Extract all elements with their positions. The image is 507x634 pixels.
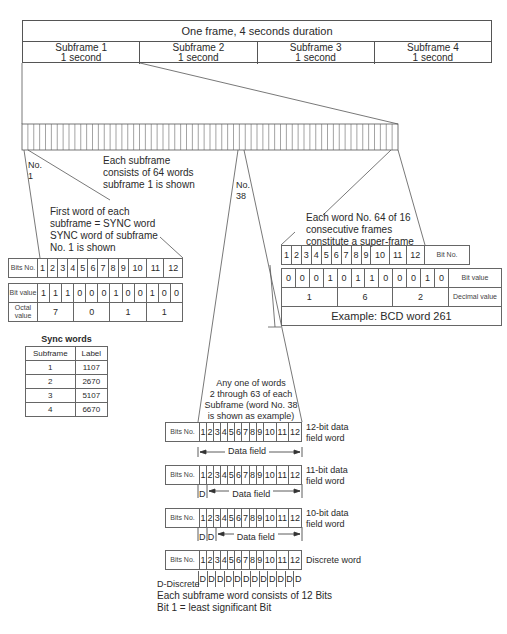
decimal-value: 2 [393,288,449,307]
sync-words-table: SubframeLabel 11107226703510746670 [25,346,108,417]
bit-number: 3 [214,551,221,570]
bit-number: 3 [58,259,68,278]
bit-number: 10 [263,466,276,485]
bit-number: 3 [214,423,221,442]
bit-number: 11 [276,551,288,570]
bit-number: 11 [276,466,288,485]
bit-number: 10 [128,259,146,278]
bit-number: 4 [221,509,228,528]
cell: 3 [26,389,76,403]
bit-number: 1 [200,466,207,485]
bit-number: 8 [249,551,256,570]
bit-value: 1 [421,269,435,288]
bit-value: 1 [146,284,158,303]
bit-number: 5 [228,423,235,442]
bit-value: 0 [158,284,170,303]
bit-value: 0 [379,269,393,288]
legend: D-Discrete Each subframe word consists o… [157,578,332,614]
bit-number: 1 [282,246,292,265]
bit-number: 1 [200,551,207,570]
bit-number: 5 [228,466,235,485]
cell: 4 [26,403,76,417]
data-word-bits-table: Bits No.123456789101112 [165,508,302,528]
bit-number: 8 [108,259,118,278]
bit-value: 1 [365,269,379,288]
bit-value: 0 [134,284,146,303]
bit-number: 9 [256,423,263,442]
bit-number: 12 [406,246,424,265]
bit-number: 5 [78,259,88,278]
data-word-bits-table: Bits No.123456789101112 [165,465,302,485]
bit-number: 7 [242,423,249,442]
column-header: Label [75,347,107,361]
cell: 2670 [75,375,107,389]
bit-number: 12 [288,423,301,442]
bit-number: 8 [249,509,256,528]
bit-number: 2 [291,246,301,265]
bit-number: 7 [98,259,108,278]
bit-number: 5 [321,246,331,265]
superframe-bit-value-table: 000101100010Bit value 162Decimal value E… [281,268,502,326]
sync-bit-value-table: Bit value111000100100 Octal value7011 [8,283,183,322]
bit-number: 9 [256,509,263,528]
cell: 5107 [75,389,107,403]
bit-value: 0 [86,284,98,303]
bit-number: 6 [235,551,242,570]
table-row: 22670 [26,375,108,389]
bit-value: 1 [110,284,122,303]
subframe-3: Subframe 31 second [258,42,375,64]
bits-no-label: Bits No. [166,551,200,570]
bit-number: 8 [249,423,256,442]
bit-number: 8 [249,466,256,485]
bit-number: 12 [288,466,301,485]
word-38-label: No. 38 [236,180,250,202]
bit-number: 7 [242,509,249,528]
bit-number: 10 [263,509,276,528]
cell: 6670 [75,403,107,417]
data-word-bits-table: Bits No.123456789101112 [165,550,302,570]
bit-number: 2 [207,423,214,442]
cell: 1 [26,361,76,375]
data-field-label: Data field [229,489,273,499]
bit-value: 0 [282,269,296,288]
bit-value: 0 [122,284,134,303]
bit-number: 7 [341,246,351,265]
bit-number: 7 [242,466,249,485]
bit-number: 6 [235,466,242,485]
bit-number: 9 [361,246,371,265]
superframe-bit-number-table: 123456789101112Bit No. [281,245,470,265]
bit-number: 3 [214,509,221,528]
bit-value: 0 [337,269,351,288]
discrete-bit: D [207,529,216,545]
octal-value: 1 [146,303,182,322]
bit-number: 6 [331,246,341,265]
bit-number: 12 [164,259,183,278]
subframe-4: Subframe 41 second [375,42,491,64]
subframe-2: Subframe 21 second [140,42,257,64]
word-type-label: Discrete word [306,550,361,566]
octal-value: 7 [38,303,74,322]
bit-number: 3 [214,466,221,485]
decimal-value: 6 [337,288,393,307]
decimal-value: 1 [282,288,338,307]
bit-no-label: Bit No. [425,246,470,265]
bit-number: 11 [276,423,288,442]
bit-value: 0 [309,269,323,288]
bit-number: 6 [235,423,242,442]
frame-title: One frame, 4 seconds duration [23,21,491,42]
bit-value: 1 [62,284,74,303]
sync-bits-number-table: Bits No.123456789101112 [8,258,183,278]
bcd-example: Example: BCD word 261 [282,307,502,326]
bit-number: 6 [235,509,242,528]
sync-words-title: Sync words [25,333,108,345]
bit-number: 10 [371,246,389,265]
column-header: Subframe [26,347,76,361]
bit-number: 9 [256,466,263,485]
bit-number: 8 [351,246,361,265]
octal-value: 1 [110,303,146,322]
bits-no-label: Bits No. [166,423,200,442]
octal-value: 0 [74,303,110,322]
bit-number: 9 [256,551,263,570]
cell: 1107 [75,361,107,375]
bit-number: 6 [88,259,98,278]
